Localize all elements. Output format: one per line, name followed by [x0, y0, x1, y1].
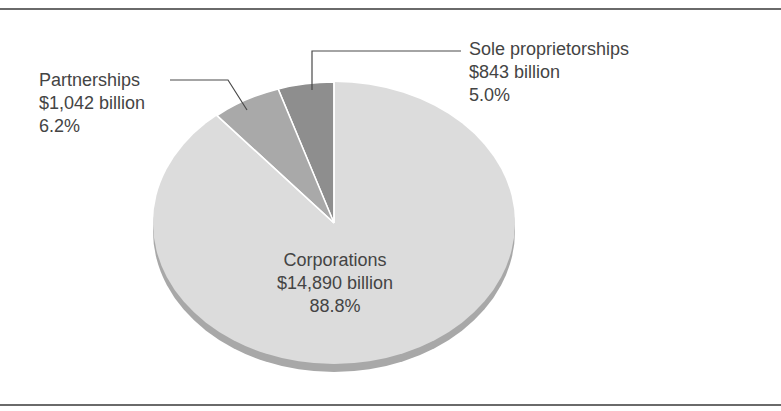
- label-sole-percent: 5.0%: [469, 84, 629, 107]
- label-partnerships-percent: 6.2%: [39, 115, 145, 138]
- label-sole-name: Sole proprietorships: [469, 38, 629, 61]
- label-corporations: Corporations $14,890 billion 88.8%: [235, 249, 435, 318]
- label-corporations-name: Corporations: [235, 249, 435, 272]
- label-partnerships-name: Partnerships: [39, 69, 145, 92]
- label-partnerships-value: $1,042 billion: [39, 92, 145, 115]
- label-sole-value: $843 billion: [469, 61, 629, 84]
- label-corporations-percent: 88.8%: [235, 295, 435, 318]
- label-sole-proprietorships: Sole proprietorships $843 billion 5.0%: [469, 38, 629, 107]
- label-corporations-value: $14,890 billion: [235, 272, 435, 295]
- label-partnerships: Partnerships $1,042 billion 6.2%: [39, 69, 145, 138]
- pie-chart: [0, 0, 781, 411]
